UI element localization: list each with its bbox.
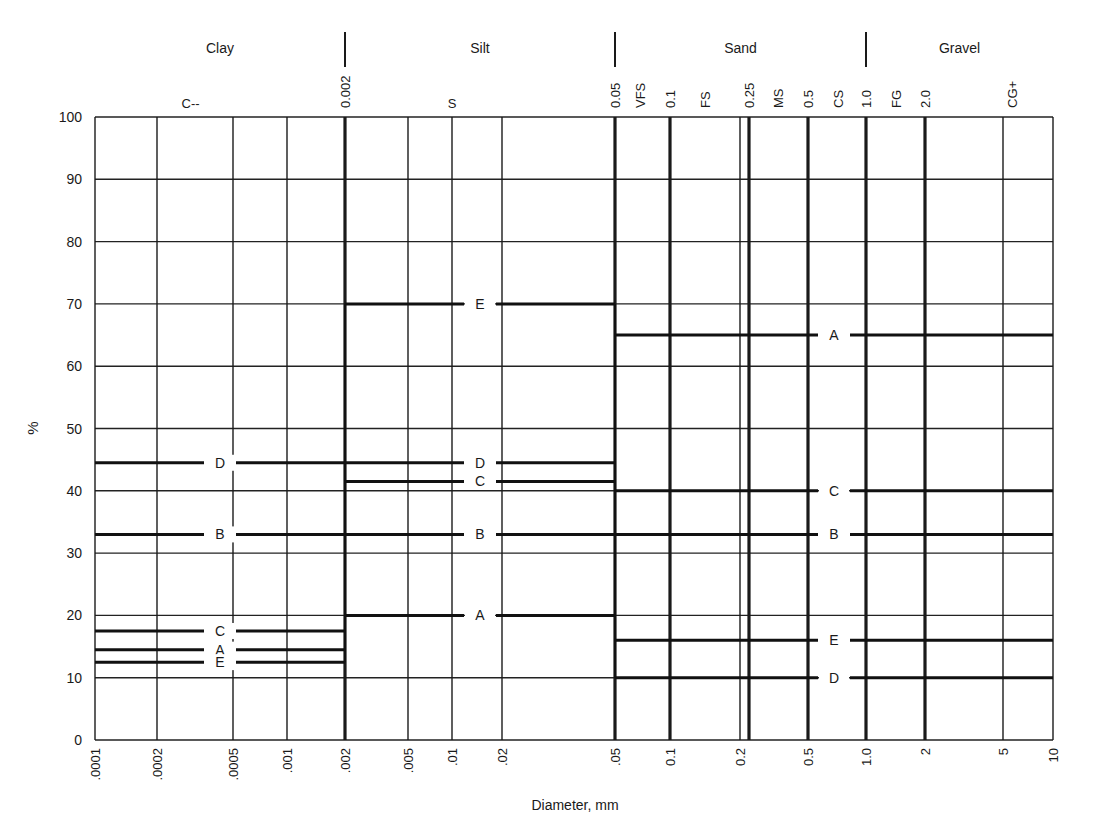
series-e-label: E	[475, 296, 484, 312]
series-a-label: A	[829, 327, 839, 343]
subclass-label: FS	[698, 91, 713, 108]
x-tick-label: .01	[445, 748, 460, 766]
y-tick-label: 60	[66, 358, 82, 374]
series-d-label: D	[829, 670, 839, 686]
y-tick-label: 90	[66, 171, 82, 187]
y-tick-label: 20	[66, 607, 82, 623]
y-tick-label: 10	[66, 670, 82, 686]
series-c-label: C	[215, 623, 225, 639]
x-tick-label: 0.5	[801, 748, 816, 766]
subclass-label: 0.1	[663, 90, 678, 108]
y-tick-label: 30	[66, 545, 82, 561]
series-e-label: E	[829, 632, 838, 648]
series-a-label: A	[475, 607, 485, 623]
x-tick-label: .02	[495, 748, 510, 766]
x-tick-label: .001	[280, 748, 295, 773]
x-tick-label: .0001	[88, 748, 103, 781]
subclass-label: 0.25	[742, 83, 757, 108]
subclass-label: FG	[889, 90, 904, 108]
x-tick-label: 5	[996, 748, 1011, 755]
class-labels: ClaySiltSandGravelC--S0.0020.05VFS0.1FS0…	[182, 40, 1020, 111]
class-label-silt: Silt	[470, 40, 490, 56]
x-tick-label: 0.2	[733, 748, 748, 766]
x-tick-label: .005	[401, 748, 416, 773]
class-label-clay: Clay	[206, 40, 234, 56]
series-b-label: B	[475, 526, 484, 542]
series-d-label: D	[215, 455, 225, 471]
x-tick-label: .0002	[150, 748, 165, 781]
subclass-label: 1.0	[859, 90, 874, 108]
y-tick-label: 0	[74, 732, 82, 748]
class-label-gravel: Gravel	[939, 40, 980, 56]
series-c-label: C	[475, 473, 485, 489]
x-tick-label: .05	[608, 748, 623, 766]
y-axis-label: %	[24, 421, 41, 434]
subclass-label: MS	[771, 88, 786, 108]
series-b-label: B	[829, 526, 838, 542]
y-axis-tick-labels: 0102030405060708090100	[59, 109, 83, 748]
subclass-label: CS	[831, 90, 846, 108]
y-tick-label: 40	[66, 483, 82, 499]
grid-lines	[95, 32, 1053, 740]
x-tick-label: .002	[338, 748, 353, 773]
x-tick-label: 0.1	[663, 748, 678, 766]
x-tick-label: .0005	[226, 748, 241, 781]
subclass-label: C--	[182, 96, 200, 111]
subclass-label: S	[448, 96, 457, 111]
particle-size-chart: AAABBBCCCDDDEEE 0102030405060708090100 .…	[0, 0, 1096, 840]
x-tick-label: 10	[1046, 748, 1061, 762]
subclass-label: 0.002	[338, 75, 353, 108]
series-b-label: B	[215, 526, 224, 542]
subclass-label: CG+	[1005, 81, 1020, 108]
x-axis-tick-labels: .0001.0002.0005.001.002.005.01.02.050.10…	[88, 748, 1061, 781]
series-d-label: D	[475, 455, 485, 471]
subclass-label: 2.0	[918, 90, 933, 108]
x-axis-label: Diameter, mm	[531, 797, 618, 813]
x-tick-label: 1.0	[859, 748, 874, 766]
y-tick-label: 50	[66, 421, 82, 437]
class-label-sand: Sand	[724, 40, 757, 56]
y-tick-label: 100	[59, 109, 83, 125]
subclass-label: VFS	[633, 82, 648, 108]
subclass-label: 0.05	[608, 83, 623, 108]
series-e-label: E	[215, 654, 224, 670]
y-tick-label: 70	[66, 296, 82, 312]
subclass-label: 0.5	[801, 90, 816, 108]
x-tick-label: 2	[918, 748, 933, 755]
y-tick-label: 80	[66, 234, 82, 250]
series-c-label: C	[829, 483, 839, 499]
